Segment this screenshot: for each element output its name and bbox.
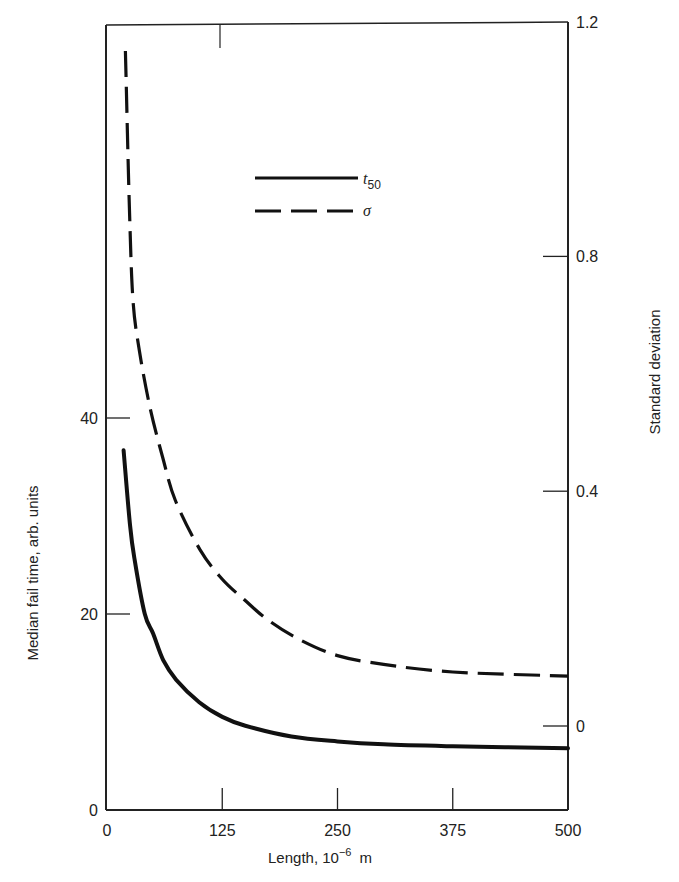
plot-frame bbox=[106, 22, 568, 810]
y-left-tick-label: 0 bbox=[89, 802, 98, 819]
legend-label-t50: t50 bbox=[363, 170, 381, 192]
x-axis-ticks: 0125250375500 bbox=[103, 788, 582, 839]
legend-label-sigma: σ bbox=[363, 202, 372, 219]
series-t50-line bbox=[124, 450, 568, 748]
y-right-tick-label: 0.4 bbox=[576, 483, 598, 500]
y-right-tick-label: 0.8 bbox=[576, 248, 598, 265]
y-right-tick-label: 0 bbox=[576, 718, 585, 735]
y-axis-left-title: Median fail time, arb. units bbox=[24, 485, 41, 660]
y-axis-right-ticks: 00.40.81.2 bbox=[543, 14, 598, 735]
legend: t50 σ bbox=[255, 170, 381, 219]
x-tick-label: 0 bbox=[103, 822, 112, 839]
chart-canvas: 0125250375500 02040 00.40.81.2 t50 σ Len… bbox=[0, 0, 679, 882]
y-left-tick-label: 20 bbox=[80, 606, 98, 623]
x-axis-title: Length, 10−6m bbox=[268, 846, 372, 866]
series-sigma-line bbox=[125, 51, 568, 676]
x-tick-label: 125 bbox=[209, 822, 236, 839]
x-tick-label: 500 bbox=[555, 822, 582, 839]
y-axis-right-title: Standard deviation bbox=[646, 309, 663, 434]
x-tick-label: 375 bbox=[439, 822, 466, 839]
y-left-tick-label: 40 bbox=[80, 410, 98, 427]
x-tick-label: 250 bbox=[324, 822, 351, 839]
y-right-tick-label: 1.2 bbox=[576, 14, 598, 31]
